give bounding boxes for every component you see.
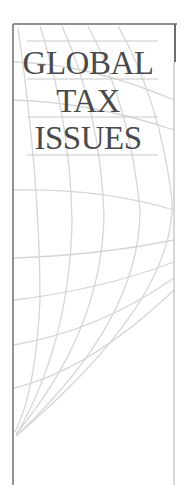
- title-line-global: GLOBAL: [13, 47, 163, 80]
- title-line-tax: TAX: [13, 85, 163, 118]
- title-line-issues: ISSUES: [13, 122, 163, 155]
- cover-graphic: GLOBAL TAX ISSUES: [0, 0, 180, 485]
